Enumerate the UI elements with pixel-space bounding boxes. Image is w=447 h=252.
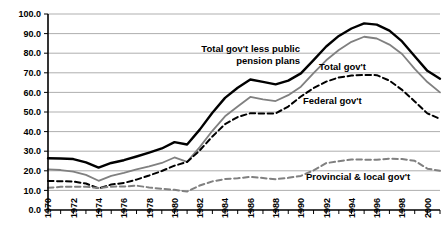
annot-total-less-pension: Total gov't less publicpension plans <box>201 43 300 66</box>
x-axis-tick-label: 1982 <box>195 198 205 218</box>
annot-total-gov: Total gov't <box>319 61 367 72</box>
x-axis-tick-label: 2000 <box>423 198 433 218</box>
x-axis-tick-label: 1986 <box>246 198 256 218</box>
y-axis-tick-label: 20.0 <box>23 166 41 176</box>
y-axis-tick-labels: 0.010.020.030.040.050.060.070.080.090.01… <box>18 9 41 215</box>
x-axis-tick-labels: 1970197219741976197819801982198419861988… <box>43 198 432 218</box>
annot-provincial-local-gov: Provincial & local gov't <box>306 171 411 182</box>
x-axis-tick-label: 1978 <box>145 198 155 218</box>
y-axis-tick-label: 50.0 <box>23 107 41 117</box>
x-axis-tick-label: 1974 <box>94 198 104 218</box>
y-axis-tick-label: 80.0 <box>23 48 41 58</box>
x-axis-tick-label: 1984 <box>220 198 230 218</box>
y-axis-tick-label: 100.0 <box>18 9 41 19</box>
x-axis-tick-label: 1992 <box>322 198 332 218</box>
y-axis-tick-label: 30.0 <box>23 146 41 156</box>
x-axis-tick-label: 1972 <box>69 198 79 218</box>
chart-container: 0.010.020.030.040.050.060.070.080.090.01… <box>0 0 447 252</box>
x-axis-tick-label: 1976 <box>119 198 129 218</box>
x-axis-tick-label: 1988 <box>271 198 281 218</box>
line-chart: 0.010.020.030.040.050.060.070.080.090.01… <box>0 0 447 252</box>
y-axis-tick-label: 70.0 <box>23 68 41 78</box>
y-axis-tick-label: 60.0 <box>23 88 41 98</box>
y-axis-tick-label: 0.0 <box>28 205 41 215</box>
x-axis-tick-label: 1998 <box>397 198 407 218</box>
x-axis-tick-label: 1990 <box>296 198 306 218</box>
y-axis-tick-label: 90.0 <box>23 29 41 39</box>
y-axis-tick-label: 40.0 <box>23 127 41 137</box>
y-axis-tick-label: 10.0 <box>23 186 41 196</box>
x-axis-tick-label: 1996 <box>372 198 382 218</box>
x-axis-tick-label: 1994 <box>347 198 357 218</box>
series-annotations: Total gov't less publicpension plansTota… <box>201 43 411 182</box>
annot-federal-gov: Federal gov't <box>303 95 363 106</box>
x-axis-tick-label: 1980 <box>170 198 180 218</box>
